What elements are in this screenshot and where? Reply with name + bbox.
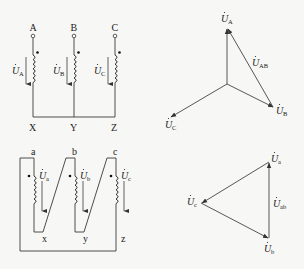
svg-text:a: a	[46, 175, 49, 182]
voltage-label-Ua: U a	[39, 169, 49, 182]
polarity-dot-C	[118, 51, 121, 54]
phasor-label-Ub: U b	[264, 242, 274, 255]
phasor-label-Uab: U ab	[273, 197, 286, 210]
svg-text:AB: AB	[259, 62, 269, 69]
terminal-circle-B	[72, 34, 76, 38]
svg-text:a: a	[278, 158, 281, 165]
delta-circuit: a b c U a U b U	[20, 146, 131, 251]
voltage-label-UA: U A	[12, 64, 24, 77]
coil-icon-B	[74, 55, 76, 83]
terminal-label-x: x	[42, 233, 47, 244]
voltage-label-Uc: U c	[121, 169, 131, 182]
svg-text:c: c	[194, 201, 197, 208]
phasor-label-Ua: U a	[271, 152, 281, 165]
terminal-label-b: b	[72, 146, 77, 157]
svg-text:A: A	[19, 70, 24, 77]
polarity-dot-A	[36, 51, 39, 54]
phasor-Uc-to-Ub	[201, 203, 268, 238]
polarity-dot-B	[77, 51, 80, 54]
svg-text:b: b	[87, 175, 90, 182]
wye-phasor-diagram: U A U AB U B U C	[165, 12, 288, 131]
transformer-connection-diagram: A B C U A U B	[0, 0, 304, 269]
wye-circuit: A B C U A U B	[12, 22, 121, 133]
svg-text:B: B	[283, 110, 288, 117]
terminal-label-c: c	[113, 146, 118, 157]
terminal-circle-C	[113, 34, 117, 38]
phasor-Ua-to-Uc	[202, 162, 269, 203]
terminal-label-Z: Z	[111, 122, 117, 133]
terminal-circle-A	[31, 34, 35, 38]
svg-text:b: b	[271, 248, 274, 255]
terminal-label-y: y	[83, 233, 88, 244]
phasor-UC	[171, 84, 227, 117]
phasor-label-UAB: U AB	[252, 56, 269, 69]
delta-phasor-diagram: U a U ab U b U c	[187, 152, 286, 255]
svg-text:ab: ab	[280, 203, 286, 210]
svg-text:c: c	[128, 175, 131, 182]
terminal-label-Y: Y	[70, 122, 77, 133]
coil-icon-a	[34, 176, 36, 204]
coil-icon-C	[115, 55, 117, 83]
terminal-label-C: C	[112, 22, 119, 33]
phasor-label-UA: U A	[221, 12, 233, 25]
voltage-label-UC: U C	[94, 64, 105, 77]
voltage-label-Ub: U b	[80, 169, 90, 182]
polarity-dot-b	[69, 175, 72, 178]
terminal-label-B: B	[71, 22, 78, 33]
terminal-label-a: a	[31, 146, 36, 157]
svg-text:C: C	[172, 124, 176, 131]
voltage-label-UB: U B	[53, 64, 65, 77]
phasor-label-UC: U C	[165, 118, 176, 131]
terminal-label-X: X	[29, 122, 37, 133]
svg-text:A: A	[228, 18, 233, 25]
coil-icon-c	[116, 176, 118, 204]
terminal-label-A: A	[30, 22, 38, 33]
polarity-dot-c	[110, 175, 113, 178]
polarity-dot-a	[28, 175, 31, 178]
svg-text:C: C	[101, 70, 105, 77]
coil-icon-b	[75, 176, 77, 204]
phasor-label-Uc: U c	[187, 195, 197, 208]
coil-icon-A	[33, 55, 35, 83]
phasor-label-UB: U B	[276, 104, 288, 117]
terminal-label-z: z	[121, 233, 126, 244]
svg-text:B: B	[60, 70, 65, 77]
